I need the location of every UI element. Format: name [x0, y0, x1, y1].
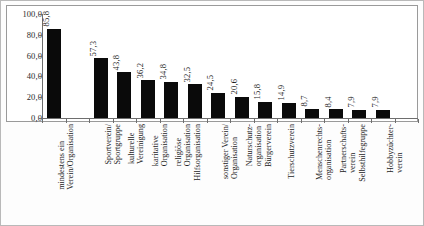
x-axis-tick	[324, 119, 325, 123]
bar[interactable]	[141, 80, 155, 118]
x-axis-tick	[348, 119, 349, 123]
y-axis-tick-label: 60,0	[6, 52, 42, 61]
bar-series: 85,857,343,836,234,832,524,520,615,814,9…	[42, 14, 418, 118]
category-label-line: Hobbyzüchter-	[386, 124, 395, 173]
x-axis-tick	[183, 119, 184, 123]
x-axis-category-label: kulturelleVereinigung	[127, 124, 146, 164]
category-label-line: organisation	[325, 124, 334, 180]
bar-slot: 36,2	[136, 14, 160, 118]
bar-slot: 14,9	[277, 14, 301, 118]
chart-page: 100,080,060,040,020,00,0 85,857,343,836,…	[0, 0, 424, 226]
category-label-line: Menschenrechts-	[315, 124, 324, 180]
x-axis-category-label: Hilfsorganisation	[193, 124, 202, 181]
category-label-line: Hilfsorganisation	[193, 124, 202, 181]
bar[interactable]	[352, 110, 366, 118]
bar-value-label: 36,2	[135, 63, 144, 79]
y-axis-tick-label: 100,0	[6, 10, 42, 19]
bar-slot: 8,4	[324, 14, 348, 118]
category-label-line: sonstiger Verein/	[221, 124, 230, 179]
category-label-line: mindestens ein	[57, 124, 66, 190]
y-axis-tick-label: 20,0	[6, 93, 42, 102]
x-axis-tick	[395, 119, 396, 123]
x-axis-category-label: Bürgerverein	[264, 124, 273, 167]
x-axis-tick	[254, 119, 255, 123]
bar-slot: 7,9	[371, 14, 395, 118]
x-axis-tick	[371, 119, 372, 123]
bar-value-label: 57,3	[88, 41, 97, 57]
category-label-line: Partnerschafts-	[339, 124, 348, 173]
bar-slot: 57,3	[89, 14, 113, 118]
x-axis-category-label: Naturschutz-organisation	[245, 124, 264, 166]
x-axis-tick	[113, 119, 114, 123]
x-axis-tick	[89, 119, 90, 123]
category-label-line: Sportgruppe	[113, 124, 122, 164]
bar-value-label: 7,9	[370, 97, 379, 108]
x-axis-tick	[277, 119, 278, 123]
x-axis-category-labels: mindestens einVerein/OrganisationSportve…	[42, 124, 418, 224]
bar-value-label: 34,8	[159, 64, 168, 80]
bar-value-label: 32,5	[182, 67, 191, 83]
x-axis-category-label: Partnerschafts-verein	[339, 124, 358, 173]
bar[interactable]	[305, 109, 319, 118]
bar-slot: 85,8	[42, 14, 66, 118]
category-label-line: Sportverein/	[104, 124, 113, 164]
category-label-line: Organisation	[184, 124, 193, 166]
bar[interactable]	[164, 82, 178, 118]
bar-slot: 15,8	[254, 14, 278, 118]
bar-value-label: 20,6	[229, 79, 238, 95]
bar-slot: 7,9	[348, 14, 372, 118]
x-axis-tick	[418, 119, 419, 123]
bar[interactable]	[211, 93, 225, 118]
category-label-line: Bürgerverein	[264, 124, 273, 167]
bar[interactable]	[329, 109, 343, 118]
category-label-line: Tierschutzverein	[287, 124, 296, 179]
x-axis-category-label: Sportverein/Sportgruppe	[104, 124, 123, 164]
category-label-line: Vereinigung	[137, 124, 146, 164]
category-label-line: Naturschutz-	[245, 124, 254, 166]
bar-slot: 32,5	[183, 14, 207, 118]
x-axis-tick	[160, 119, 161, 123]
x-axis-category-label: karitativeOrganisation	[151, 124, 170, 166]
bar[interactable]	[258, 102, 272, 118]
bar-value-label: 8,4	[323, 96, 332, 107]
category-label-line: religiöse	[174, 124, 183, 166]
x-axis-tick	[301, 119, 302, 123]
y-axis-tick	[39, 35, 43, 36]
bar-value-label: 43,8	[112, 55, 121, 71]
x-axis-category-label: Menschenrechts-organisation	[315, 124, 334, 180]
category-label-line: verein	[395, 124, 404, 173]
bar[interactable]	[235, 97, 249, 118]
bar[interactable]	[376, 110, 390, 118]
bar[interactable]	[47, 29, 61, 118]
bar-slot: 43,8	[113, 14, 137, 118]
y-axis-tick	[39, 76, 43, 77]
category-label-line: Organisation	[160, 124, 169, 166]
bar[interactable]	[188, 84, 202, 118]
x-axis-category-label: sonstiger Verein/Organisation	[221, 124, 240, 179]
category-label-line: kulturelle	[127, 124, 136, 164]
category-label-line: Selbsthilfegruppe	[358, 124, 367, 182]
bar-slot: 20,6	[230, 14, 254, 118]
y-axis-tick	[39, 14, 43, 15]
x-axis-tick	[136, 119, 137, 123]
x-axis-tick	[230, 119, 231, 123]
y-axis-tick-label: 40,0	[6, 72, 42, 81]
category-label-line: verein	[348, 124, 357, 173]
bar-slot: 24,5	[207, 14, 231, 118]
y-axis-labels: 100,080,060,040,020,00,0	[1, 1, 42, 226]
bar[interactable]	[94, 58, 108, 118]
bar-value-label: 15,8	[253, 84, 262, 100]
y-axis-tick	[39, 56, 43, 57]
category-label-line: Organisation	[231, 124, 240, 179]
x-axis-category-label: Selbsthilfegruppe	[358, 124, 367, 182]
y-axis-tick-label: 0,0	[6, 114, 42, 123]
category-label-line: karitative	[151, 124, 160, 166]
category-label-line: organisation	[254, 124, 263, 166]
x-axis-tick	[66, 119, 67, 123]
x-axis-category-label: Tierschutzverein	[287, 124, 296, 179]
x-axis-category-label: Hobbyzüchter-verein	[386, 124, 405, 173]
bar-value-label: 7,9	[347, 97, 356, 108]
bar[interactable]	[282, 103, 296, 118]
bar[interactable]	[117, 72, 131, 118]
bar-slot: 34,8	[160, 14, 184, 118]
